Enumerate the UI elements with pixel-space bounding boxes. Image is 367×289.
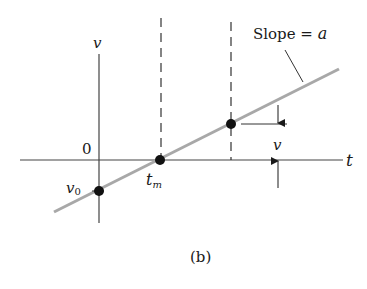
velocity-time-diagram: v t 0 v0 tm Slope = a v (b): [0, 0, 367, 289]
slope-leader: [285, 50, 303, 82]
dimension-label: v: [273, 136, 282, 154]
v0-label: v0: [66, 179, 81, 197]
t-axis-label: t: [346, 150, 353, 170]
tm-label: tm: [146, 170, 162, 190]
point-v0: [94, 186, 104, 196]
v-axis-label: v: [93, 34, 102, 52]
slope-label: Slope = a: [253, 24, 327, 43]
figure-caption: (b): [190, 248, 211, 266]
point-tm: [155, 155, 165, 165]
origin-label: 0: [82, 140, 92, 158]
point-p: [226, 119, 236, 129]
